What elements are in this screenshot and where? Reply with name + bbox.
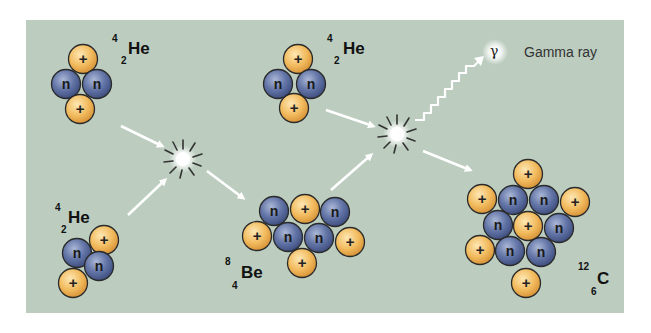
element-symbol: He	[68, 209, 90, 226]
atomic-number: 4	[232, 281, 238, 291]
mass-number: 12	[578, 262, 589, 272]
element-symbol: He	[343, 40, 365, 57]
atomic-number: 2	[334, 56, 340, 66]
element-symbol: Be	[241, 264, 263, 281]
gamma-symbol: γ	[490, 44, 498, 58]
gamma-ray-label: Gamma ray	[524, 45, 597, 59]
mass-number: 4	[55, 203, 61, 213]
mass-number: 4	[112, 34, 118, 44]
carbon-12-nucleus	[466, 160, 590, 298]
mass-number: 4	[327, 34, 333, 44]
atomic-number: 2	[121, 56, 127, 66]
helium-4-nucleus-top-middle	[264, 45, 326, 123]
helium-4-nucleus-bottom-left	[59, 226, 119, 298]
element-symbol: C	[597, 270, 609, 287]
atomic-number: 6	[591, 287, 597, 297]
element-symbol: He	[128, 40, 150, 57]
triple-alpha-diagram: + n	[0, 0, 651, 333]
collision-burst-icon	[378, 115, 416, 153]
collision-burst-icon	[164, 140, 202, 178]
atomic-number: 2	[61, 225, 67, 235]
helium-4-nucleus-top-left	[52, 45, 112, 124]
mass-number: 8	[225, 257, 231, 267]
